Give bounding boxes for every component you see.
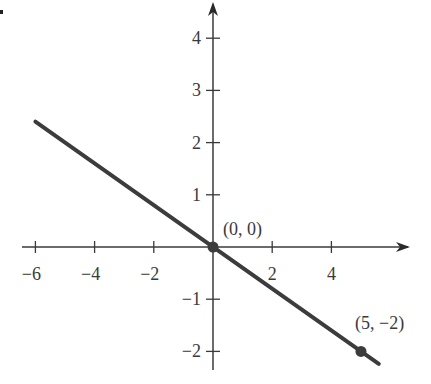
y-tick-label: 1 xyxy=(192,185,201,205)
y-tick-label: 4 xyxy=(192,28,201,48)
chart-plot: −6−4−224 4321−1−2 (0, 0)(5, −2) xyxy=(0,0,431,384)
y-tick-label: −1 xyxy=(182,289,201,309)
y-ticks: 4321−1−2 xyxy=(182,28,220,361)
x-tick-label: 2 xyxy=(268,264,277,284)
x-tick-label: 4 xyxy=(327,264,336,284)
series-line xyxy=(35,122,378,364)
x-tick-label: −6 xyxy=(22,264,41,284)
y-tick-label: 3 xyxy=(192,80,201,100)
data-line xyxy=(35,122,378,364)
data-point xyxy=(356,346,367,357)
point-label: (0, 0) xyxy=(223,219,262,240)
x-tick-label: −2 xyxy=(140,264,159,284)
axes xyxy=(22,4,408,370)
y-tick-label: 2 xyxy=(192,133,201,153)
point-label: (5, −2) xyxy=(355,313,404,334)
data-points: (0, 0)(5, −2) xyxy=(208,219,405,357)
y-tick-label: −2 xyxy=(182,341,201,361)
data-point xyxy=(208,242,219,253)
x-tick-label: −4 xyxy=(81,264,100,284)
